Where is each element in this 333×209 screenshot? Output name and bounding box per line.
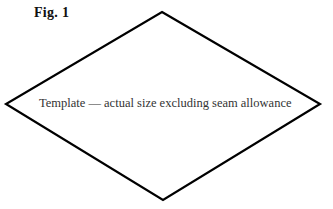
template-caption: Template — actual size excluding seam al…: [39, 96, 295, 111]
